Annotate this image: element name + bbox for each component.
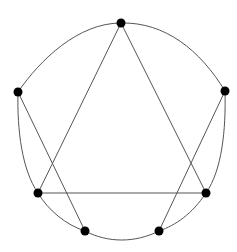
graph-diagram (0, 0, 237, 252)
vertex-bottom-left (81, 227, 90, 236)
graph-vertices (14, 19, 230, 236)
curve-edge-left-top (18, 23, 121, 92)
vertex-lower-left (34, 189, 43, 198)
curve-edge-bottom-right-bottom-left (85, 231, 159, 240)
curve-edge-right-lower-right (206, 91, 225, 193)
vertex-top (117, 19, 126, 28)
chord-edges (18, 23, 225, 231)
vertex-bottom-right (155, 227, 164, 236)
curve-edge-top-right (121, 23, 225, 91)
curve-edge-lower-left-left (18, 92, 38, 193)
vertex-lower-right (202, 189, 211, 198)
chord-edge-top-lower-right (121, 23, 206, 193)
curve-edge-bottom-left-lower-left (38, 193, 85, 231)
chord-edge-top-lower-left (38, 23, 121, 193)
curve-edge-lower-right-bottom-right (159, 193, 206, 231)
outer-cycle-curves (18, 23, 225, 240)
vertex-left (14, 88, 23, 97)
vertex-right (221, 87, 230, 96)
